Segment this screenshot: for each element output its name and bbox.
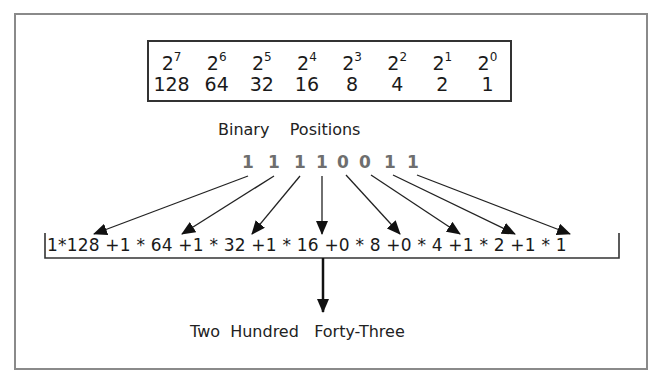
arrow-bit-0 [417,175,570,234]
arrow-bit-2 [371,175,460,234]
arrow-bit-3 [346,175,400,234]
arrow-bit-1 [393,175,515,234]
result-label: Two Hundred Forty-Three [190,322,405,341]
arrow-bit-6 [182,176,274,234]
arrow-bit-7 [94,176,248,234]
weighted-sum-expression: 1*128 +1 * 64 +1 * 32 +1 * 16 +0 * 8 +0 … [47,235,567,255]
